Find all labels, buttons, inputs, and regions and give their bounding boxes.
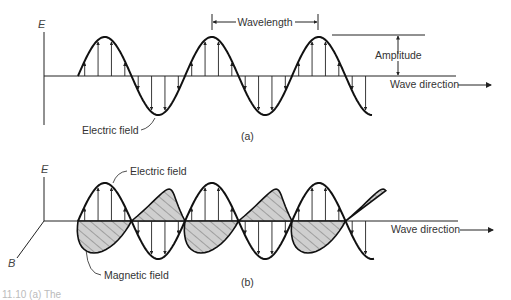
wavelength-indicator: Wavelength: [212, 14, 318, 30]
em-wave-diagram: E Wavelength Amplitude Wave direction El…: [0, 0, 511, 300]
amplitude-label: Amplitude: [375, 49, 422, 61]
wave-direction-label-a: Wave direction: [390, 78, 459, 90]
electric-field-leader-b: [113, 171, 127, 183]
magnetic-lobe: [77, 221, 131, 253]
magnetic-lobe: [239, 189, 293, 221]
e-axis-label-b: E: [41, 163, 49, 175]
magnetic-lobe: [346, 189, 386, 221]
wavelength-label: Wavelength: [237, 16, 292, 28]
magnetic-lobe: [291, 221, 345, 253]
magnetic-lobe: [132, 189, 186, 221]
panel-b: E B Electric field Magnetic field Wave d…: [8, 163, 493, 288]
e-axis-label: E: [38, 18, 46, 30]
amplitude-indicator: Amplitude: [332, 35, 425, 75]
panel-b-tag: (b): [241, 276, 254, 288]
panel-a: E Wavelength Amplitude Wave direction El…: [38, 14, 491, 142]
panel-a-tag: (a): [241, 130, 254, 142]
electric-field-label-a: Electric field: [82, 124, 139, 136]
b-axis: [17, 221, 44, 258]
electric-field-label-b: Electric field: [130, 165, 187, 177]
caption-fragment: 11.10 (a) The: [2, 289, 62, 300]
wave-direction-label-b: Wave direction: [391, 223, 460, 235]
b-axis-label: B: [8, 257, 15, 269]
electric-field-leader-a: [141, 118, 155, 130]
magnetic-lobe: [184, 221, 238, 253]
magnetic-field-label: Magnetic field: [104, 269, 169, 281]
